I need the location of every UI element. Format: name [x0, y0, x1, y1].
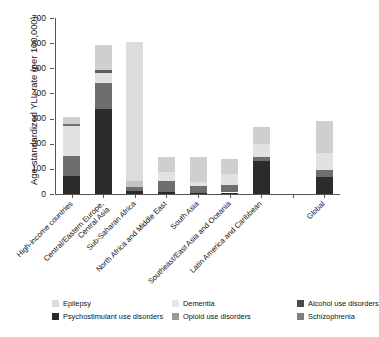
x-category-label-line: Global: [306, 200, 327, 221]
bar-segment: [221, 159, 238, 173]
legend-swatch: [52, 313, 59, 320]
bar-segment: [95, 45, 112, 70]
y-tick-label: 0: [2, 190, 46, 199]
bar-segment: [158, 172, 175, 181]
bar[interactable]: [190, 157, 207, 194]
y-tick-mark: [50, 169, 54, 170]
bar[interactable]: [316, 121, 333, 194]
bar-segment: [316, 153, 333, 170]
bar-segment: [95, 83, 112, 108]
bar-segment: [63, 156, 80, 177]
bar-segment: [190, 157, 207, 183]
y-tick-label: 100: [2, 164, 46, 173]
legend-swatch: [297, 300, 304, 307]
x-tick-mark: [198, 194, 199, 198]
bar[interactable]: [253, 127, 270, 194]
y-tick-label: 400: [2, 89, 46, 98]
legend-label: Psychostimulant use disorders: [63, 313, 163, 321]
x-tick-mark: [135, 194, 136, 198]
bar-segment: [126, 187, 143, 191]
x-category-label: Global: [306, 200, 327, 221]
x-tick-mark: [166, 194, 167, 198]
bar-segment: [316, 121, 333, 152]
bar[interactable]: [63, 117, 80, 194]
legend-label: Opioid use disorders: [183, 313, 251, 321]
plot-area: [56, 18, 340, 194]
bar[interactable]: [158, 157, 175, 194]
legend-label: Alcohol use disorders: [308, 300, 379, 308]
bar-segment: [253, 127, 270, 144]
bar-segment: [316, 177, 333, 194]
x-category-label-line: South Asia: [169, 200, 201, 232]
legend-item[interactable]: Alcohol use disorders: [297, 298, 379, 309]
y-tick-mark: [50, 68, 54, 69]
legend-item[interactable]: Epilepsy: [52, 298, 91, 309]
y-tick-label: 300: [2, 114, 46, 123]
y-tick-mark: [50, 119, 54, 120]
x-category-label-line: Central/Eastern Europe,: [43, 200, 107, 264]
legend-label: Epilepsy: [63, 300, 91, 308]
legend-swatch: [297, 313, 304, 320]
bar[interactable]: [95, 45, 112, 194]
bar-segment: [158, 181, 175, 192]
x-tick-mark: [261, 194, 262, 198]
bar-segment: [190, 186, 207, 193]
bar-segment: [316, 170, 333, 177]
legend-label: Schizophrenia: [308, 313, 355, 321]
legend-swatch: [52, 300, 59, 307]
bar-segment: [158, 157, 175, 172]
legend-item[interactable]: Dementia: [172, 298, 215, 309]
bar-segment: [221, 185, 238, 193]
legend-swatch: [172, 300, 179, 307]
y-tick-mark: [50, 18, 54, 19]
x-tick-mark: [230, 194, 231, 198]
bar-segment: [63, 117, 80, 124]
bar-segment: [126, 42, 143, 181]
y-tick-label: 700: [2, 14, 46, 23]
bar[interactable]: [221, 159, 238, 194]
bar-segment: [253, 157, 270, 162]
bar-segment: [63, 126, 80, 156]
x-tick-mark: [72, 194, 73, 198]
bar-segment: [95, 73, 112, 84]
bar-segment: [190, 182, 207, 186]
bar-segment: [253, 144, 270, 157]
bar-segment: [63, 176, 80, 194]
y-tick-label: 500: [2, 64, 46, 73]
x-tick-mark-empty: [293, 194, 294, 198]
x-category-label: South Asia: [169, 200, 201, 232]
bar-segment: [126, 181, 143, 188]
bar-segment: [253, 161, 270, 194]
y-tick-mark: [50, 194, 54, 195]
x-tick-mark: [324, 194, 325, 198]
y-tick-label: 600: [2, 39, 46, 48]
bar-segment: [95, 70, 112, 73]
y-tick-label: 200: [2, 139, 46, 148]
bar-segment: [221, 174, 238, 185]
legend-item[interactable]: Psychostimulant use disorders: [52, 311, 163, 322]
bar-segment: [63, 124, 80, 126]
bar[interactable]: [126, 42, 143, 194]
bar-segment: [95, 109, 112, 194]
legend-item[interactable]: Schizophrenia: [297, 311, 355, 322]
legend-label: Dementia: [183, 300, 215, 308]
legend-item[interactable]: Opioid use disorders: [172, 311, 251, 322]
y-tick-mark: [50, 43, 54, 44]
x-tick-mark: [103, 194, 104, 198]
legend-swatch: [172, 313, 179, 320]
y-tick-mark: [50, 144, 54, 145]
y-tick-mark: [50, 93, 54, 94]
